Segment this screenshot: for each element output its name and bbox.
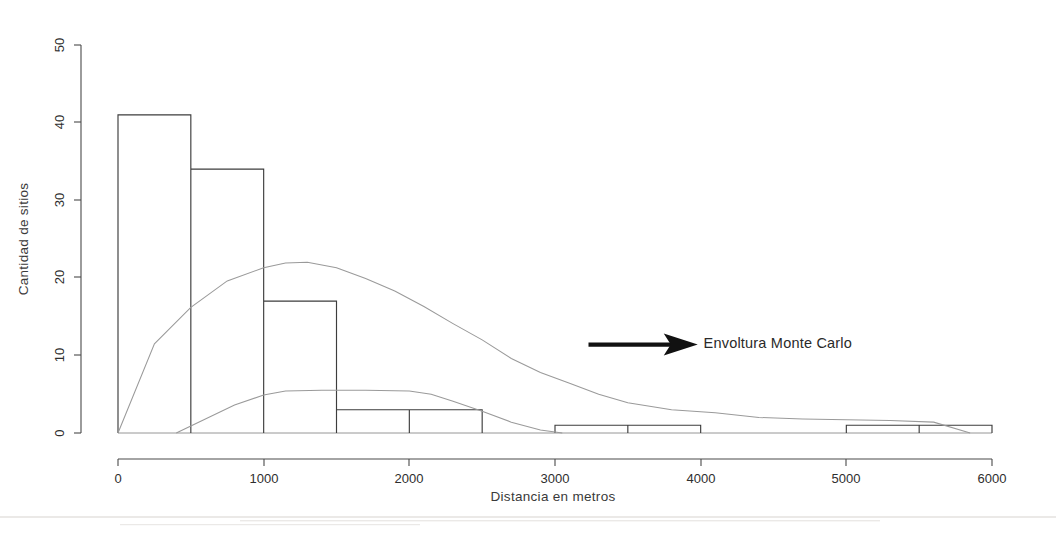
annotation-label: Envoltura Monte Carlo	[704, 335, 852, 351]
y-tick-label-20: 20	[52, 270, 67, 284]
x-tick-label-0: 0	[114, 471, 121, 486]
histogram-bar	[555, 425, 628, 433]
histogram-figure: 50 40 30 20 10 0 Cantidad de sitios 0 10…	[0, 0, 1056, 534]
histogram-bar	[774, 432, 847, 433]
histogram-bar	[701, 432, 774, 433]
y-tick-label-10: 10	[52, 348, 67, 362]
histogram-bar	[337, 410, 410, 433]
x-tick-label-2000: 2000	[395, 471, 424, 486]
x-tick-label-1000: 1000	[250, 471, 279, 486]
y-tick-label-0: 0	[52, 429, 67, 436]
x-tick-label-6000: 6000	[978, 471, 1007, 486]
histogram-bar	[628, 425, 701, 433]
y-axis-title: Cantidad de sitios	[16, 183, 31, 296]
histogram-bar	[264, 301, 337, 433]
x-axis-title: Distancia en metros	[491, 489, 616, 504]
y-tick-label-50: 50	[52, 38, 67, 52]
x-tick-label-3000: 3000	[541, 471, 570, 486]
x-tick-label-4000: 4000	[687, 471, 716, 486]
histogram-bar	[482, 432, 555, 433]
x-tick-label-5000: 5000	[832, 471, 861, 486]
y-tick-label-30: 30	[52, 193, 67, 207]
y-tick-label-40: 40	[52, 115, 67, 129]
histogram-bar	[846, 425, 919, 433]
histogram-bar	[191, 169, 264, 433]
histogram-bar	[118, 115, 191, 433]
histogram-bar	[409, 410, 482, 433]
